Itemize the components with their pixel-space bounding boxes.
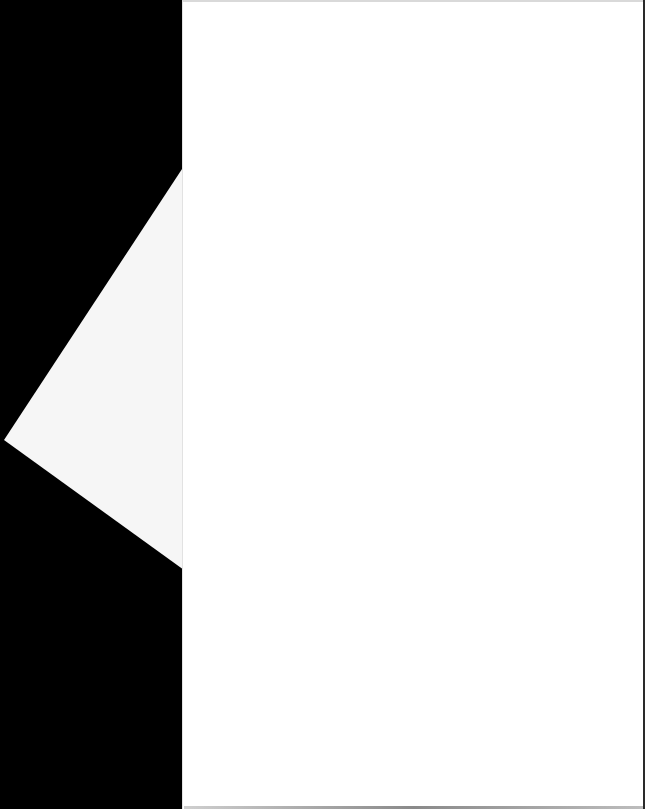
photo-scene (0, 0, 645, 809)
flap-shape (4, 166, 184, 570)
paper-sheet (182, 0, 643, 809)
